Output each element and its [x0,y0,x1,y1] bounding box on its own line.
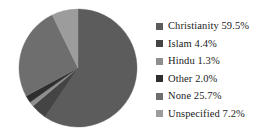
chart-legend: Christianity 59.5%Islam 4.4%Hindu 1.3%Ot… [156,17,260,122]
legend-swatch-icon [156,58,163,65]
legend-swatch-icon [156,93,163,100]
legend-item-label: Christianity 59.5% [168,20,249,31]
legend-item: None 25.7% [156,87,260,105]
legend-swatch-icon [156,110,163,117]
legend-item: Islam 4.4% [156,35,260,53]
legend-item: Hindu 1.3% [156,52,260,70]
legend-swatch-icon [156,40,163,47]
pie-chart-figure: Christianity 59.5%Islam 4.4%Hindu 1.3%Ot… [0,0,260,136]
legend-swatch-icon [156,23,163,30]
legend-item-label: Islam 4.4% [168,38,217,49]
legend-item: Other 2.0% [156,70,260,88]
legend-item-label: Hindu 1.3% [168,55,220,66]
pie-svg [18,8,138,128]
pie-slice-group [19,9,137,127]
legend-item: Christianity 59.5% [156,17,260,35]
legend-item-label: Other 2.0% [168,73,217,84]
legend-item-label: None 25.7% [168,90,222,101]
pie-plot-area [18,8,138,128]
legend-item-label: Unspecified 7.2% [168,108,245,119]
legend-swatch-icon [156,75,163,82]
legend-item: Unspecified 7.2% [156,105,260,123]
